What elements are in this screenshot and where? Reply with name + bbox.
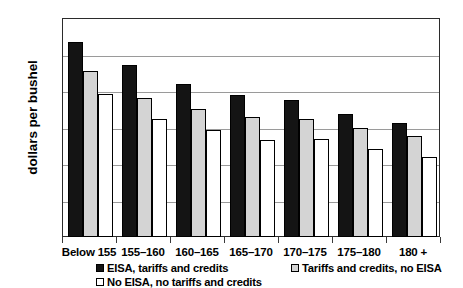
bar: [176, 84, 191, 237]
bar-group: [278, 18, 332, 237]
x-tick-label: 165–170: [229, 246, 272, 258]
x-tick-label: 160–165: [175, 246, 218, 258]
x-tick-label: 175–180: [337, 246, 380, 258]
x-tick-mark: [332, 237, 333, 243]
bar: [299, 119, 314, 237]
bar-group: [224, 18, 278, 237]
bar: [98, 94, 113, 237]
x-tick-label: 155–160: [121, 246, 164, 258]
x-tick-label: 180 +: [399, 246, 427, 258]
x-tick-label: Below 155: [62, 246, 116, 258]
bar: [83, 71, 98, 237]
bar: [407, 136, 422, 237]
x-tick-mark: [278, 237, 279, 243]
bar: [368, 149, 383, 237]
bar: [338, 114, 353, 237]
legend-entry: Tariffs and credits, no EISA: [291, 262, 442, 274]
bar-group: [386, 18, 440, 237]
bar: [68, 42, 83, 237]
bar-chart: dollars per bushel 5.004.504.003.503.002…: [0, 0, 463, 288]
x-tick-label: 170–175: [283, 246, 326, 258]
bar: [206, 130, 221, 237]
x-tick-mark: [170, 237, 171, 243]
x-tick-mark: [386, 237, 387, 243]
legend-entry: No EISA, no tariffs and credits: [96, 276, 262, 288]
x-tick-mark: [62, 237, 63, 243]
x-tick-mark: [116, 237, 117, 243]
bar: [353, 128, 368, 238]
y-axis-title: dollars per bushel: [25, 23, 40, 213]
bar-group: [170, 18, 224, 237]
legend-swatch-icon: [96, 264, 104, 272]
bar-group: [62, 18, 116, 237]
bar: [191, 109, 206, 237]
bar-group: [332, 18, 386, 237]
bar: [137, 98, 152, 237]
legend-entry: EISA, tariffs and credits: [96, 262, 228, 274]
legend-swatch-icon: [96, 278, 104, 286]
bar: [230, 95, 245, 237]
x-tick-mark: [440, 237, 441, 243]
bar: [260, 140, 275, 237]
bar: [152, 119, 167, 237]
legend-label: Tariffs and credits, no EISA: [302, 262, 442, 274]
x-tick-mark: [224, 237, 225, 243]
bar: [122, 65, 137, 237]
legend-label: No EISA, no tariffs and credits: [107, 276, 262, 288]
legend-swatch-icon: [291, 264, 299, 272]
bar: [314, 139, 329, 237]
bars-layer: [62, 18, 440, 237]
bar: [422, 157, 437, 237]
bar: [245, 117, 260, 237]
bar-group: [116, 18, 170, 237]
legend-label: EISA, tariffs and credits: [107, 262, 228, 274]
bar: [284, 100, 299, 237]
bar: [392, 123, 407, 237]
